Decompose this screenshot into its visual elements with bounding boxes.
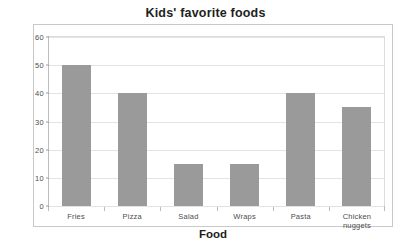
category-separator	[329, 207, 330, 211]
bar-chart: Kids' favorite foods No. of kids 6050403…	[0, 0, 411, 249]
x-tick-label-line: Wraps	[217, 212, 273, 221]
x-tick-label: Fries	[48, 207, 104, 227]
x-tick-label: Pasta	[273, 207, 329, 227]
y-tick-label: 20	[35, 145, 44, 154]
bar[interactable]	[230, 164, 259, 206]
chart-title: Kids' favorite foods	[0, 6, 411, 20]
bar[interactable]	[174, 164, 203, 206]
bar-slot	[328, 37, 384, 206]
bar-slot	[272, 37, 328, 206]
bar-slot	[161, 37, 217, 206]
bar[interactable]	[62, 65, 91, 206]
bar-slot	[49, 37, 105, 206]
y-tick-label: 50	[35, 61, 44, 70]
bar[interactable]	[342, 107, 371, 206]
category-separator	[104, 207, 105, 211]
x-tick-label: Pizza	[104, 207, 160, 227]
x-tick-label-line: Fries	[48, 212, 104, 221]
x-tick-label-line: Pasta	[273, 212, 329, 221]
category-separator	[384, 207, 385, 211]
bar[interactable]	[286, 93, 315, 206]
x-axis-title: Food	[33, 228, 393, 240]
bars-group	[49, 37, 384, 206]
plot-area: 6050403020100	[48, 36, 385, 207]
bar-slot	[105, 37, 161, 206]
x-tick-label: Salad	[160, 207, 216, 227]
bar[interactable]	[118, 93, 147, 206]
x-axis-categories: FriesPizzaSaladWrapsPastaChickennuggets	[48, 207, 385, 227]
y-tick-label: 60	[35, 33, 44, 42]
x-tick-label: Wraps	[217, 207, 273, 227]
x-tick-label-line: Salad	[160, 212, 216, 221]
x-tick-label-line: Chicken	[329, 212, 385, 221]
y-tick-label: 0	[40, 202, 44, 211]
y-tick-label: 10	[35, 173, 44, 182]
category-separator	[160, 207, 161, 211]
bar-slot	[216, 37, 272, 206]
category-separator	[217, 207, 218, 211]
category-separator	[273, 207, 274, 211]
y-tick-label: 30	[35, 117, 44, 126]
x-tick-label-line: Pizza	[104, 212, 160, 221]
y-tick-label: 40	[35, 89, 44, 98]
category-separator	[48, 207, 49, 211]
x-tick-label: Chickennuggets	[329, 207, 385, 227]
